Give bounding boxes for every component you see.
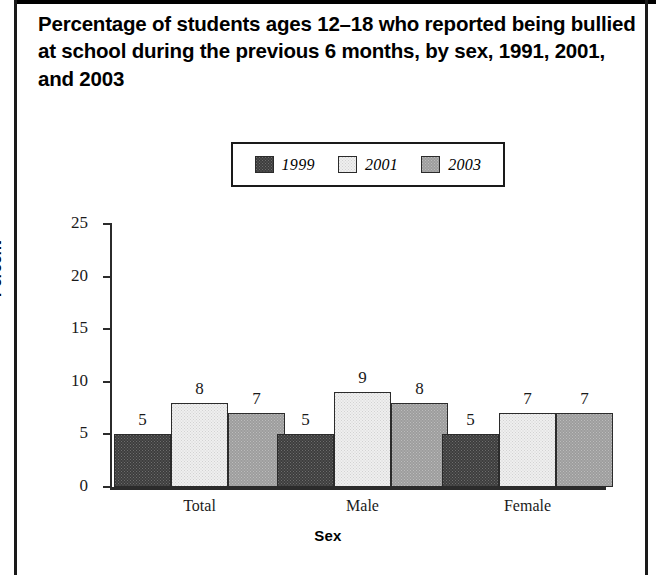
bar-total-1999 — [114, 434, 171, 487]
x-axis-group-label-female: Female — [442, 497, 613, 515]
bar-male-2001 — [334, 392, 391, 487]
bar-value-label: 8 — [171, 379, 228, 399]
legend-label-2003: 2003 — [448, 156, 481, 174]
chart-figure: Percentage of students ages 12–18 who re… — [0, 0, 656, 575]
legend-swatch-2001-icon — [338, 156, 357, 173]
y-axis-label: Percent — [0, 241, 4, 297]
y-axis-tick — [103, 486, 112, 488]
bar-female-1999 — [442, 434, 499, 487]
x-axis-line — [110, 487, 606, 490]
y-axis-tick — [103, 328, 112, 330]
bar-value-label: 7 — [228, 389, 285, 409]
y-axis-tick-label: 0 — [54, 476, 88, 496]
y-axis-tick — [103, 223, 112, 225]
bar-value-label: 5 — [277, 410, 334, 430]
y-axis-tick — [103, 433, 112, 435]
x-axis-group-label-male: Male — [277, 497, 448, 515]
legend-item-2001: 2001 — [338, 156, 398, 174]
y-axis-tick-label: 5 — [54, 423, 88, 443]
y-axis-tick-label: 10 — [54, 371, 88, 391]
bar-value-label: 9 — [334, 368, 391, 388]
bar-value-label: 5 — [114, 410, 171, 430]
x-axis-group-label-total: Total — [114, 497, 285, 515]
plot-area: 0510152025587598577 — [112, 224, 606, 487]
left-rule — [14, 0, 17, 575]
bar-female-2001 — [499, 413, 556, 487]
bar-male-1999 — [277, 434, 334, 487]
bar-value-label: 5 — [442, 410, 499, 430]
y-axis-tick — [103, 381, 112, 383]
x-axis-label: Sex — [0, 527, 656, 544]
legend-swatch-2003-icon — [421, 156, 440, 173]
right-rule — [645, 0, 648, 575]
legend-item-2003: 2003 — [421, 156, 481, 174]
bar-female-2003 — [556, 413, 613, 487]
y-axis-tick-label: 15 — [54, 318, 88, 338]
chart-legend: 1999 2001 2003 — [231, 142, 505, 187]
y-axis-tick-label: 20 — [54, 266, 88, 286]
legend-item-1999: 1999 — [255, 156, 315, 174]
y-axis-tick — [103, 276, 112, 278]
bar-value-label: 7 — [499, 389, 556, 409]
chart-title: Percentage of students ages 12–18 who re… — [38, 10, 638, 92]
y-axis-tick-label: 25 — [54, 213, 88, 233]
bar-total-2001 — [171, 403, 228, 487]
bar-value-label: 7 — [556, 389, 613, 409]
bar-value-label: 8 — [391, 379, 448, 399]
top-rule — [14, 0, 656, 4]
legend-swatch-1999-icon — [255, 156, 274, 173]
legend-label-2001: 2001 — [365, 156, 398, 174]
legend-label-1999: 1999 — [282, 156, 315, 174]
bar-male-2003 — [391, 403, 448, 487]
